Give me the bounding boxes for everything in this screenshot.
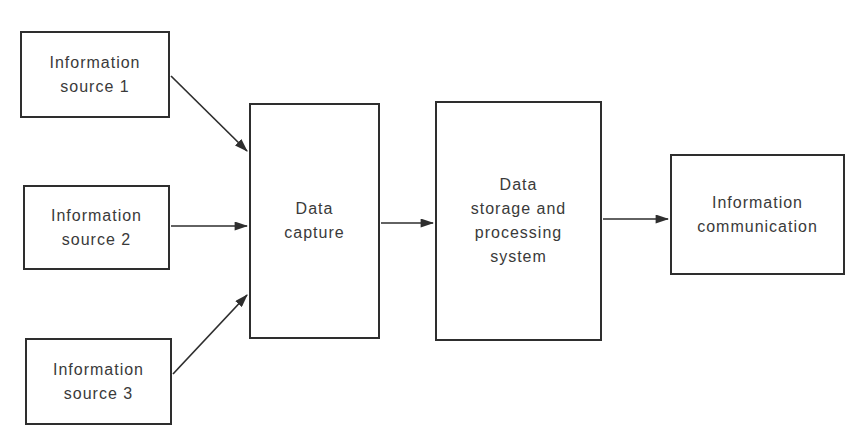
node-information-source-1-label: Information source 1 [49, 51, 140, 99]
node-information-communication: Information communication [670, 154, 845, 275]
node-information-source-1: Information source 1 [20, 31, 170, 118]
node-information-source-2: Information source 2 [23, 185, 170, 270]
node-data-capture-label: Data capture [284, 197, 344, 245]
diagram-canvas: Information source 1 Information source … [0, 0, 858, 440]
node-data-storage-processing-system-label: Data storage and processing system [471, 173, 567, 269]
arrow-source1-to-capture [171, 76, 247, 151]
node-information-source-3: Information source 3 [25, 338, 172, 425]
arrow-source3-to-capture [173, 295, 247, 374]
node-data-storage-processing-system: Data storage and processing system [435, 101, 602, 341]
node-information-source-2-label: Information source 2 [51, 204, 142, 252]
node-information-communication-label: Information communication [697, 191, 818, 239]
node-data-capture: Data capture [249, 103, 380, 339]
node-information-source-3-label: Information source 3 [53, 358, 144, 406]
